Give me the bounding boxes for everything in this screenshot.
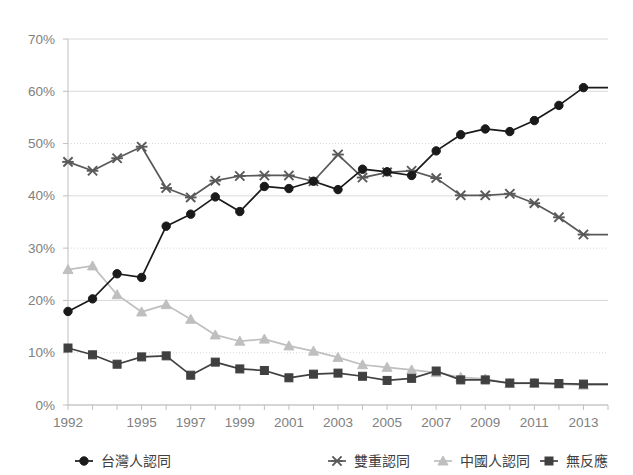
data-point-marker bbox=[479, 191, 491, 200]
data-point-marker bbox=[457, 130, 465, 138]
legend-label: 台灣人認同 bbox=[101, 453, 171, 469]
data-point-marker bbox=[211, 358, 219, 366]
data-point-marker bbox=[259, 171, 271, 180]
y-gridlines bbox=[68, 39, 608, 405]
data-point-marker bbox=[187, 210, 195, 218]
data-point-marker bbox=[186, 314, 196, 323]
data-point-marker bbox=[137, 273, 145, 281]
y-axis-tick-label: 10% bbox=[28, 345, 55, 360]
data-point-marker bbox=[457, 376, 465, 384]
data-point-marker bbox=[455, 191, 467, 200]
x-axis-tick-label: 1999 bbox=[225, 415, 255, 430]
legend-item-1[interactable]: 台灣人認同 bbox=[75, 453, 171, 469]
legend-item-2[interactable]: 雙重認同 bbox=[328, 453, 410, 469]
chart-container: 0%10%20%30%40%50%60%70%19921995199719992… bbox=[0, 0, 633, 475]
data-point-marker bbox=[309, 370, 317, 378]
data-point-marker bbox=[187, 371, 195, 379]
data-point-marker bbox=[64, 307, 72, 315]
y-axis-tick-label: 0% bbox=[35, 398, 55, 413]
x-axis-tick-label: 2007 bbox=[421, 415, 451, 430]
data-point-marker bbox=[234, 171, 246, 180]
data-point-marker bbox=[408, 374, 416, 382]
data-point-marker bbox=[481, 376, 489, 384]
data-point-marker bbox=[283, 171, 295, 180]
data-point-marker bbox=[579, 83, 587, 91]
x-axis-tick-label: 2011 bbox=[520, 415, 549, 430]
data-point-marker bbox=[80, 457, 88, 465]
data-point-marker bbox=[138, 353, 146, 361]
x-axis-tick-label: 1997 bbox=[176, 415, 206, 430]
data-point-marker bbox=[553, 213, 565, 222]
data-point-marker bbox=[432, 147, 440, 155]
data-point-marker bbox=[359, 372, 367, 380]
data-point-marker bbox=[185, 193, 197, 202]
data-point-marker bbox=[309, 177, 317, 185]
legend-label: 無反應 bbox=[566, 453, 608, 469]
data-point-marker bbox=[481, 125, 489, 133]
data-point-marker bbox=[332, 150, 344, 159]
data-point-marker bbox=[383, 376, 391, 384]
data-point-marker bbox=[260, 182, 268, 190]
data-point-marker bbox=[530, 379, 538, 387]
data-point-marker bbox=[334, 369, 342, 377]
chart-legend: 台灣人認同雙重認同中國人認同無反應 bbox=[75, 453, 608, 469]
data-point-marker bbox=[529, 199, 541, 208]
y-axis-tick-label: 60% bbox=[28, 84, 55, 99]
data-point-marker bbox=[383, 168, 391, 176]
data-point-marker bbox=[210, 330, 220, 339]
y-axis-tick-label: 30% bbox=[28, 241, 55, 256]
data-point-marker bbox=[88, 261, 98, 270]
data-point-marker bbox=[506, 127, 514, 135]
data-point-marker bbox=[555, 101, 563, 109]
data-point-marker bbox=[113, 360, 121, 368]
data-point-marker bbox=[111, 154, 123, 163]
data-point-marker bbox=[160, 183, 172, 192]
x-axis-tick-label: 2013 bbox=[568, 415, 598, 430]
data-point-marker bbox=[578, 230, 590, 239]
data-point-marker bbox=[506, 379, 514, 387]
legend-label: 中國人認同 bbox=[460, 453, 530, 469]
data-point-marker bbox=[331, 456, 343, 465]
data-point-marker bbox=[113, 270, 121, 278]
y-axis-tick-label: 50% bbox=[28, 136, 55, 151]
series-line bbox=[68, 266, 608, 385]
data-point-marker bbox=[285, 374, 293, 382]
legend-item-3[interactable]: 中國人認同 bbox=[434, 453, 530, 469]
data-point-marker bbox=[545, 457, 553, 465]
data-point-marker bbox=[162, 222, 170, 230]
data-point-marker bbox=[209, 176, 221, 185]
data-point-marker bbox=[285, 184, 293, 192]
x-axis-tick-label: 1995 bbox=[127, 415, 157, 430]
x-axis-tick-label: 2009 bbox=[470, 415, 500, 430]
data-point-marker bbox=[358, 165, 366, 173]
data-point-marker bbox=[334, 185, 342, 193]
data-point-marker bbox=[504, 189, 516, 198]
data-point-marker bbox=[530, 116, 538, 124]
legend-label: 雙重認同 bbox=[354, 453, 410, 469]
y-axis-tick-label: 20% bbox=[28, 293, 55, 308]
data-point-marker bbox=[211, 193, 219, 201]
data-point-marker bbox=[236, 207, 244, 215]
x-axis-tick-label: 2003 bbox=[323, 415, 353, 430]
data-point-marker bbox=[579, 380, 587, 388]
data-point-marker bbox=[432, 367, 440, 375]
x-axis-tick-label: 2005 bbox=[372, 415, 402, 430]
series-4 bbox=[64, 344, 608, 388]
data-point-marker bbox=[162, 352, 170, 360]
data-point-marker bbox=[357, 173, 369, 182]
data-point-marker bbox=[88, 295, 96, 303]
x-axis-tick-label: 2001 bbox=[274, 415, 304, 430]
data-point-marker bbox=[260, 366, 268, 374]
data-point-marker bbox=[87, 166, 99, 175]
legend-item-4[interactable]: 無反應 bbox=[540, 453, 608, 469]
y-axis-tick-label: 40% bbox=[28, 188, 55, 203]
x-axis-tick-label: 1992 bbox=[53, 415, 83, 430]
data-point-marker bbox=[136, 142, 148, 151]
data-point-marker bbox=[430, 173, 442, 182]
data-point-marker bbox=[236, 365, 244, 373]
data-point-marker bbox=[161, 300, 171, 309]
line-chart: 0%10%20%30%40%50%60%70%19921995199719992… bbox=[0, 0, 633, 475]
y-axis-tick-label: 70% bbox=[28, 32, 55, 47]
data-point-marker bbox=[555, 380, 563, 388]
data-point-marker bbox=[64, 344, 72, 352]
